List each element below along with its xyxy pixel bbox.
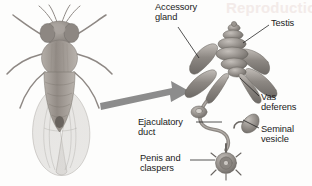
fly-eye-left [40, 24, 55, 43]
label-penis-claspers: Penis and claspers [140, 153, 180, 174]
label-ejaculatory-duct: Ejaculatory duct [138, 117, 183, 138]
organ-accessory-gland-left [190, 44, 218, 74]
organ-testis [216, 21, 248, 77]
fly-thorax [42, 40, 78, 76]
label-vas-deferens: Vas deferens [261, 92, 296, 113]
fly-eye-right [64, 24, 79, 43]
organ-seminal-vesicle [234, 114, 259, 133]
label-testis: Testis [271, 18, 294, 28]
label-seminal-vesicle: Seminal vesicle [261, 124, 294, 145]
label-accessory-gland: Accessory gland [155, 2, 197, 23]
leader-accessory-gland [178, 27, 199, 58]
organ-penis-claspers [211, 144, 241, 180]
organ-accessory-ring [191, 106, 207, 118]
pointer-arrow [100, 81, 190, 110]
drosophila-fly [7, 5, 112, 175]
leader-testis [243, 25, 269, 43]
